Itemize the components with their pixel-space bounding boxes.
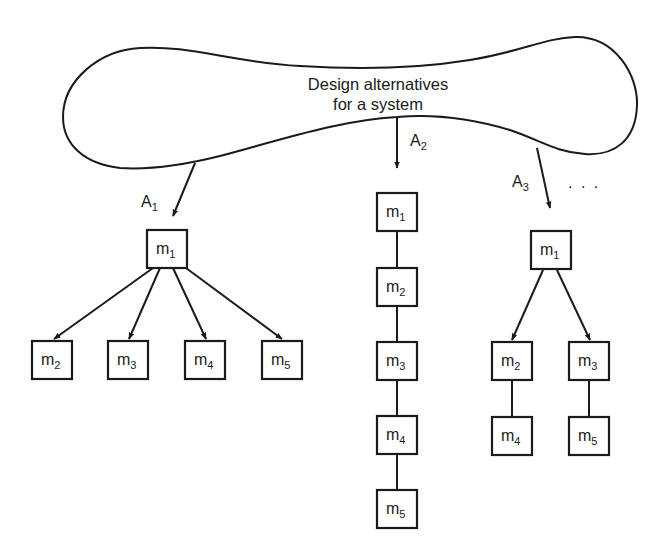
module-boxes: m1m2m3m4m5m1m2m3m4m5m1m2m3m4m5 [32, 193, 609, 528]
module-box-a1-m2: m2 [32, 341, 72, 379]
alternative-arrow-a2: A2 [397, 117, 427, 168]
module-box-a2-m3: m3 [377, 342, 417, 380]
module-box-a2-m2: m2 [377, 268, 417, 306]
cloud-label-line-2: for a system [333, 95, 423, 113]
alternative-label-a3: A3 [512, 173, 529, 193]
system-cloud: Design alternatives for a system [63, 37, 637, 169]
module-box-a3-m3: m3 [569, 342, 609, 380]
module-box-a3-m4: m4 [492, 417, 532, 455]
module-box-a1-m3: m3 [108, 341, 148, 379]
more-alternatives-ellipsis: . . . [568, 174, 600, 191]
alternative-arrow-a3: A3 [512, 148, 550, 208]
module-box-a2-m4: m4 [377, 416, 417, 454]
module-box-a3-m1: m1 [531, 231, 571, 269]
module-box-a1-m4: m4 [185, 341, 225, 379]
alternative-label-a2: A2 [410, 132, 427, 152]
module-box-a1-m5: m5 [262, 341, 302, 379]
design-alternatives-diagram: Design alternatives for a system A1 A2 A… [0, 0, 661, 556]
alternative-label-a1: A1 [141, 193, 158, 213]
module-box-a2-m5: m5 [377, 490, 417, 528]
a1-tree-edges [54, 268, 282, 339]
module-box-a3-m2: m2 [492, 342, 532, 380]
cloud-label-line-1: Design alternatives [308, 75, 448, 93]
module-box-a1-m1: m1 [147, 230, 187, 268]
module-box-a2-m1: m1 [377, 193, 417, 231]
module-box-a3-m5: m5 [569, 417, 609, 455]
alternative-arrow-a1: A1 [141, 163, 195, 216]
